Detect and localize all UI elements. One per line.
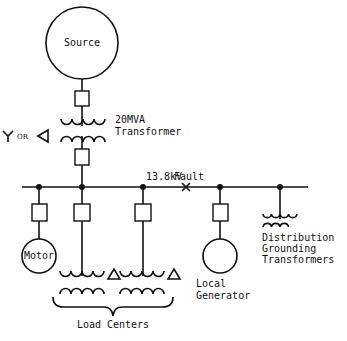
lc1-delta-icon (108, 269, 120, 279)
source: Source (46, 7, 118, 79)
grounding-label-line3: Transformers (262, 254, 334, 265)
grounding-secondary-winding (263, 223, 289, 227)
main-transformer: 20MVA Transformer (61, 114, 181, 142)
source-breaker (75, 91, 89, 106)
wye-icon (3, 131, 13, 142)
grounding-label-line1: Distribution (262, 232, 334, 243)
lc2-primary-winding (120, 271, 164, 277)
transformer-rating-label: 20MVA (115, 114, 145, 125)
transformer-breaker (75, 149, 89, 165)
motor-label: Motor (24, 250, 54, 261)
generator-circle (203, 239, 237, 273)
load-center-1 (60, 187, 120, 294)
lc2-breaker (135, 204, 151, 221)
winding-note: OR (3, 130, 48, 142)
fault-label: Fault (174, 171, 204, 182)
gen-breaker (213, 204, 228, 221)
delta-icon (38, 130, 48, 142)
one-line-diagram: Source 20MVA Transformer OR 13.8kV Fault… (0, 0, 347, 341)
source-label: Source (64, 37, 100, 48)
load-center-2 (120, 187, 180, 294)
transformer-secondary-winding (61, 137, 105, 143)
generator-label-line2: Generator (196, 290, 250, 301)
generator-label-line1: Local (196, 278, 226, 289)
lc1-secondary-winding (60, 289, 104, 295)
load-centers-label: Load Centers (77, 319, 149, 330)
transformer-type-label: Transformer (115, 126, 181, 137)
lc2-secondary-winding (120, 289, 164, 295)
or-text: OR (17, 133, 29, 141)
local-generator-branch: Local Generator (196, 187, 250, 301)
transformer-primary-winding (61, 119, 105, 125)
lc1-breaker (74, 204, 90, 221)
grounding-transformer-branch: Distribution Grounding Transformers (262, 187, 334, 265)
load-centers-brace (53, 297, 173, 316)
grounding-label-line2: Grounding (262, 243, 316, 254)
motor-branch: Motor (22, 187, 56, 273)
lc2-delta-icon (168, 269, 180, 279)
motor-breaker (32, 204, 47, 221)
